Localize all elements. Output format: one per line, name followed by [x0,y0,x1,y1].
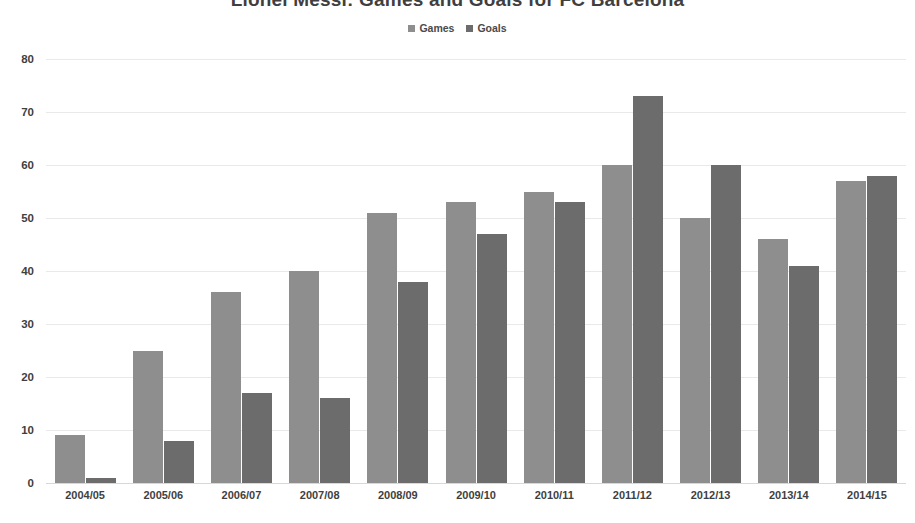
bar-group [672,59,750,483]
y-axis-tick-label: 60 [21,159,34,171]
bar-goals-2007-08[interactable] [320,398,350,483]
x-axis-label: 2004/05 [46,489,124,501]
bar-games-2005-06[interactable] [133,351,163,484]
bar-games-2013-14[interactable] [758,239,788,483]
bar-games-2007-08[interactable] [289,271,319,483]
chart-title: Lionel Messi: Games and Goals for FC Bar… [0,0,915,11]
x-axis-label: 2008/09 [359,489,437,501]
bar-group [593,59,671,483]
x-axis-label: 2007/08 [281,489,359,501]
bar-group [828,59,906,483]
bar-groups [46,59,906,483]
legend-item-goals[interactable]: Goals [466,22,506,34]
bar-games-2011-12[interactable] [602,165,632,483]
x-axis-label: 2014/15 [828,489,906,501]
bar-goals-2012-13[interactable] [711,165,741,483]
x-axis-label: 2010/11 [515,489,593,501]
legend-item-games[interactable]: Games [408,22,454,34]
bar-group [437,59,515,483]
bar-goals-2011-12[interactable] [633,96,663,483]
y-axis-tick-label: 30 [21,318,34,330]
chart-legend: Games Goals [0,22,915,34]
legend-label-goals: Goals [477,22,506,34]
x-axis-labels: 2004/052005/062006/072007/082008/092009/… [46,489,906,501]
bar-goals-2013-14[interactable] [789,266,819,483]
y-axis-tick-label: 10 [21,424,34,436]
bar-games-2014-15[interactable] [836,181,866,483]
y-axis-tick-label: 50 [21,212,34,224]
legend-swatch-games [408,25,415,32]
bar-goals-2010-11[interactable] [555,202,585,483]
bar-games-2006-07[interactable] [211,292,241,483]
bar-group [515,59,593,483]
bar-games-2004-05[interactable] [55,435,85,483]
x-axis-label: 2012/13 [672,489,750,501]
bar-games-2008-09[interactable] [367,213,397,483]
y-axis-tick-label: 70 [21,106,34,118]
bar-group [281,59,359,483]
bar-chart: Lionel Messi: Games and Goals for FC Bar… [0,0,915,523]
y-axis-tick-label: 0 [28,477,34,489]
bar-games-2009-10[interactable] [446,202,476,483]
bar-goals-2004-05[interactable] [86,478,116,483]
bar-group [202,59,280,483]
bar-group [359,59,437,483]
x-axis-label: 2013/14 [750,489,828,501]
x-axis-label: 2011/12 [593,489,671,501]
y-axis-tick-label: 20 [21,371,34,383]
plot-area: 80706050403020100 [46,59,906,483]
legend-label-games: Games [419,22,454,34]
bar-group [46,59,124,483]
bar-goals-2008-09[interactable] [398,282,428,483]
bar-group [750,59,828,483]
bar-games-2010-11[interactable] [524,192,554,484]
bar-goals-2006-07[interactable] [242,393,272,483]
bar-goals-2005-06[interactable] [164,441,194,483]
y-axis-tick-label: 80 [21,53,34,65]
x-axis-label: 2009/10 [437,489,515,501]
bar-games-2012-13[interactable] [680,218,710,483]
legend-swatch-goals [466,25,473,32]
y-axis-tick-label: 40 [21,265,34,277]
bar-goals-2009-10[interactable] [477,234,507,483]
bar-group [124,59,202,483]
x-axis-label: 2005/06 [124,489,202,501]
x-axis-label: 2006/07 [202,489,280,501]
bar-goals-2014-15[interactable] [867,176,897,483]
gridline: 0 [46,483,906,484]
